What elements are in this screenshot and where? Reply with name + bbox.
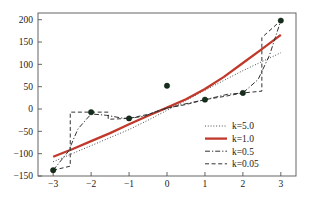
x-tick-label: −2 <box>86 179 96 189</box>
y-tick-label: 200 <box>19 15 34 25</box>
x-tick-label: −1 <box>124 179 134 189</box>
y-tick-label: −100 <box>13 149 33 159</box>
chart-background <box>0 0 312 206</box>
y-tick-label: 0 <box>28 104 33 114</box>
x-tick-label: 0 <box>165 179 170 189</box>
x-tick-label: 3 <box>278 179 283 189</box>
data-point <box>202 97 207 102</box>
legend-label: k=1.0 <box>232 134 254 144</box>
legend-label: k=5.0 <box>232 121 254 131</box>
data-point <box>50 167 55 172</box>
y-tick-label: −150 <box>13 171 33 181</box>
x-tick-label: −3 <box>48 179 58 189</box>
data-point <box>278 18 283 23</box>
data-point <box>240 90 245 95</box>
chart-figure: −3−2−10123 −150−100−50050100150200 k=5.0… <box>0 0 312 206</box>
x-tick-label: 2 <box>241 179 246 189</box>
x-tick-label: 1 <box>203 179 208 189</box>
data-point <box>126 116 131 121</box>
legend-label: k=0.05 <box>232 159 259 169</box>
y-tick-label: 100 <box>19 60 34 70</box>
y-tick-label: −50 <box>18 127 33 137</box>
data-point <box>164 83 169 88</box>
line-chart: −3−2−10123 −150−100−50050100150200 k=5.0… <box>0 0 312 206</box>
data-point <box>88 109 93 114</box>
y-tick-label: 50 <box>24 82 34 92</box>
legend-label: k=0.5 <box>232 147 254 157</box>
y-tick-label: 150 <box>19 37 34 47</box>
